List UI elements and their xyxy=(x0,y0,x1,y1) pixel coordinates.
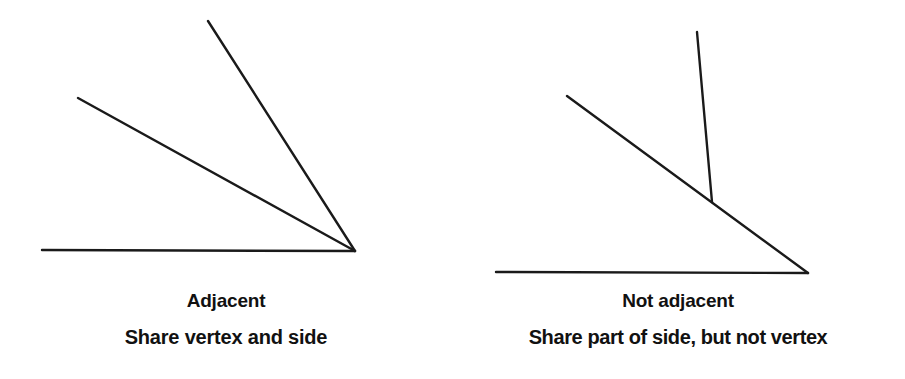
adjacent-steep-ray xyxy=(208,21,355,251)
not-adjacent-subtitle: Share part of side, but not vertex xyxy=(452,325,904,349)
not-adjacent-horizontal-ray xyxy=(496,272,808,273)
not-adjacent-vertical-ray xyxy=(697,32,712,202)
adjacent-horizontal-ray xyxy=(42,250,355,251)
adjacent-title: Adjacent xyxy=(0,290,452,312)
adjacent-middle-ray xyxy=(78,98,355,251)
diagram-canvas: Adjacent Share vertex and side Not adjac… xyxy=(0,0,905,379)
not-adjacent-angle-drawing xyxy=(452,0,904,290)
not-adjacent-title: Not adjacent xyxy=(452,290,904,312)
caption-not-adjacent: Not adjacent Share part of side, but not… xyxy=(452,290,904,349)
figure-adjacent: Adjacent Share vertex and side xyxy=(0,0,452,379)
figure-not-adjacent: Not adjacent Share part of side, but not… xyxy=(452,0,904,379)
not-adjacent-diagonal-ray xyxy=(567,96,808,273)
adjacent-subtitle: Share vertex and side xyxy=(0,325,452,349)
caption-adjacent: Adjacent Share vertex and side xyxy=(0,290,452,349)
adjacent-angle-drawing xyxy=(0,0,452,290)
